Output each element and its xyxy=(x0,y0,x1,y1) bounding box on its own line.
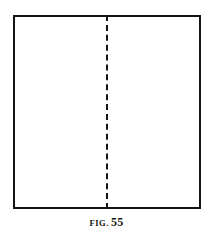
figure-caption: FIG.55 xyxy=(0,213,213,229)
square-sheet-outline xyxy=(13,15,201,209)
figure-page: FIG.55 xyxy=(0,0,213,235)
vertical-fold-line xyxy=(106,15,108,209)
figure-caption-number: 55 xyxy=(111,215,124,229)
figure-caption-label: FIG. xyxy=(89,218,109,228)
